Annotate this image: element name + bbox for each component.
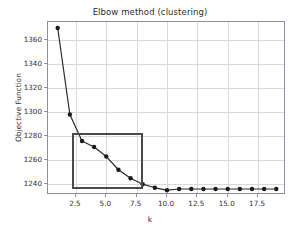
x-axis-tick-label: 5.0 xyxy=(100,199,111,208)
data-point-marker xyxy=(213,187,217,191)
y-axis-tick-label: 1320 xyxy=(24,83,42,92)
data-point-marker xyxy=(274,187,278,191)
data-point-marker xyxy=(68,112,72,116)
y-axis-tick-mark xyxy=(44,135,47,136)
y-axis-tick-mark xyxy=(44,87,47,88)
x-axis-tick-mark xyxy=(75,194,76,197)
x-axis-tick-label: 15.0 xyxy=(219,199,235,208)
y-axis-tick-mark xyxy=(44,111,47,112)
data-point-marker xyxy=(201,187,205,191)
x-axis-tick-label: 12.5 xyxy=(188,199,204,208)
x-axis-tick-mark xyxy=(166,194,167,197)
y-axis-tick-mark xyxy=(44,159,47,160)
data-point-marker xyxy=(262,187,266,191)
data-point-marker xyxy=(153,186,157,190)
y-axis-tick-label: 1280 xyxy=(24,131,42,140)
y-axis-tick-mark xyxy=(44,39,47,40)
plot-area xyxy=(47,21,285,194)
elbow-highlight-rectangle xyxy=(72,133,143,189)
y-axis-tick-mark xyxy=(44,183,47,184)
chart-title: Elbow method (clustering) xyxy=(0,7,300,17)
x-axis-tick-label: 7.5 xyxy=(130,199,141,208)
y-axis-tick-label: 1360 xyxy=(24,35,42,44)
data-point-marker xyxy=(177,187,181,191)
y-axis-tick-mark xyxy=(44,63,47,64)
y-axis-label: Objective Function xyxy=(14,73,23,142)
data-point-marker xyxy=(165,188,169,192)
x-axis-tick-label: 10.0 xyxy=(158,199,174,208)
x-axis-tick-mark xyxy=(105,194,106,197)
data-point-marker xyxy=(189,187,193,191)
chart-figure: Elbow method (clustering) 12401260128013… xyxy=(0,0,300,233)
data-point-marker xyxy=(226,187,230,191)
data-point-marker xyxy=(250,187,254,191)
y-axis-tick-label: 1300 xyxy=(24,107,42,116)
y-axis-tick-label: 1340 xyxy=(24,59,42,68)
x-axis-tick-mark xyxy=(136,194,137,197)
x-axis-tick-mark xyxy=(227,194,228,197)
y-axis-tick-label: 1260 xyxy=(24,155,42,164)
x-axis-tick-mark xyxy=(257,194,258,197)
data-point-marker xyxy=(56,26,60,30)
y-axis-tick-label: 1240 xyxy=(24,179,42,188)
x-axis-tick-label: 2.5 xyxy=(69,199,80,208)
x-axis-tick-mark xyxy=(196,194,197,197)
x-axis-label: k xyxy=(0,215,300,224)
x-axis-tick-label: 17.5 xyxy=(249,199,265,208)
data-point-marker xyxy=(238,187,242,191)
